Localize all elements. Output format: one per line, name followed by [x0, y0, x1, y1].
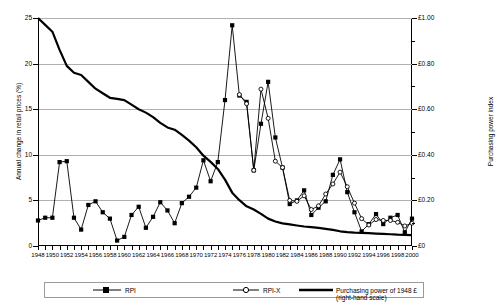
legend-label-purchasing-power: Purchasing power of 1948 £ (right-hand s…	[336, 287, 423, 301]
y-tick-left	[33, 155, 38, 156]
x-tick	[218, 246, 219, 250]
x-tick	[347, 246, 348, 250]
x-tick	[81, 246, 82, 250]
x-tick-label: 2000	[401, 252, 423, 258]
y-tick-label-left: 15	[6, 105, 32, 112]
x-tick	[38, 246, 39, 250]
x-tick	[340, 246, 341, 250]
legend-label-rpix: RPI-X	[263, 287, 280, 294]
gridline	[39, 200, 413, 201]
x-tick	[189, 246, 190, 250]
x-tick	[124, 246, 125, 250]
x-tick	[167, 246, 168, 250]
gridline	[39, 155, 413, 156]
y-tick-left	[33, 64, 38, 65]
y-tick-left	[33, 18, 38, 19]
y-tick-right-minor	[412, 86, 415, 87]
x-tick	[290, 246, 291, 250]
chart-container: Annual change in retail prices (%) Purch…	[0, 0, 503, 307]
x-tick	[283, 246, 284, 250]
x-tick	[354, 246, 355, 250]
x-tick	[117, 246, 118, 250]
y-tick-label-right: £0	[418, 242, 452, 249]
y-tick-label-left: 25	[6, 14, 32, 21]
x-tick	[369, 246, 370, 250]
x-tick	[52, 246, 53, 250]
x-tick	[160, 246, 161, 250]
x-tick	[60, 246, 61, 250]
y-tick-label-right: £0.40	[418, 151, 452, 158]
y-tick-label-right: £0.60	[418, 105, 452, 112]
y-tick-label-left: 20	[6, 60, 32, 67]
y-tick-right	[412, 155, 417, 156]
x-tick	[67, 246, 68, 250]
y-tick-right	[412, 200, 417, 201]
gridline	[39, 18, 413, 19]
x-tick	[362, 246, 363, 250]
x-tick	[196, 246, 197, 250]
x-tick	[110, 246, 111, 250]
x-tick	[376, 246, 377, 250]
x-tick	[333, 246, 334, 250]
x-tick	[45, 246, 46, 250]
x-tick	[203, 246, 204, 250]
plot-area	[38, 18, 412, 246]
x-tick	[398, 246, 399, 250]
y-tick-right-minor	[412, 41, 415, 42]
x-tick	[254, 246, 255, 250]
x-tick	[326, 246, 327, 250]
y-tick-label-right: £0.80	[418, 60, 452, 67]
y-axis-label-right: Purchasing power index	[487, 62, 494, 202]
x-tick	[103, 246, 104, 250]
x-tick	[146, 246, 147, 250]
y-tick-label-right: £0.20	[418, 196, 452, 203]
legend-label-rpi: RPI	[125, 287, 136, 294]
chart-legend: RPI RPI-X Purchasing power of 1948 £ (ri…	[44, 282, 424, 298]
x-tick	[74, 246, 75, 250]
x-tick	[88, 246, 89, 250]
y-tick-right-minor	[412, 132, 415, 133]
y-axis-label-left: Annual change in retail prices (%)	[15, 62, 22, 202]
x-tick	[247, 246, 248, 250]
x-tick	[175, 246, 176, 250]
x-tick	[211, 246, 212, 250]
x-tick	[96, 246, 97, 250]
x-tick	[311, 246, 312, 250]
x-tick	[297, 246, 298, 250]
x-tick	[319, 246, 320, 250]
x-tick	[225, 246, 226, 250]
x-tick	[182, 246, 183, 250]
x-tick	[153, 246, 154, 250]
x-tick	[390, 246, 391, 250]
y-tick-label-left: 0	[6, 242, 32, 249]
x-tick	[304, 246, 305, 250]
y-tick-right-minor	[412, 178, 415, 179]
y-tick-right	[412, 109, 417, 110]
x-tick	[132, 246, 133, 250]
y-tick-label-right: £1.00	[418, 14, 452, 21]
gridline	[39, 64, 413, 65]
x-tick	[268, 246, 269, 250]
y-tick-right	[412, 18, 417, 19]
x-tick	[275, 246, 276, 250]
x-tick	[383, 246, 384, 250]
y-tick-label-left: 10	[6, 151, 32, 158]
x-tick	[261, 246, 262, 250]
y-tick-left	[33, 200, 38, 201]
x-tick	[405, 246, 406, 250]
x-tick	[412, 246, 413, 250]
x-tick	[239, 246, 240, 250]
x-tick	[139, 246, 140, 250]
y-tick-left	[33, 109, 38, 110]
gridline	[39, 109, 413, 110]
x-tick	[232, 246, 233, 250]
y-tick-right	[412, 64, 417, 65]
y-tick-right-minor	[412, 223, 415, 224]
y-tick-label-left: 5	[6, 196, 32, 203]
